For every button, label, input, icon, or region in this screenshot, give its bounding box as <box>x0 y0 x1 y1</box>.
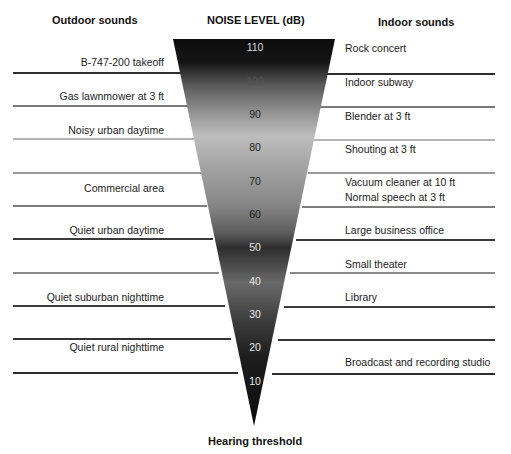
outdoor-label: Quiet urban daytime <box>69 224 164 236</box>
indoor-label: Rock concert <box>345 42 406 54</box>
db-80: 80 <box>235 141 275 153</box>
db-50: 50 <box>235 241 275 253</box>
db-110: 110 <box>235 41 275 53</box>
indoor-label: Broadcast and recording studio <box>345 356 490 368</box>
db-20: 20 <box>235 341 275 353</box>
outdoor-label: Commercial area <box>84 182 164 194</box>
db-100: 100 <box>235 75 275 87</box>
hearing-threshold-label: Hearing threshold <box>208 435 302 447</box>
outdoor-label: Quiet rural nighttime <box>69 341 164 353</box>
indoor-label: Blender at 3 ft <box>345 110 410 122</box>
indoor-label: Small theater <box>345 258 407 270</box>
db-30: 30 <box>235 308 275 320</box>
indoor-label: Vacuum cleaner at 10 ft <box>345 176 455 188</box>
db-70: 70 <box>235 175 275 187</box>
db-90: 90 <box>235 108 275 120</box>
indoor-label: Normal speech at 3 ft <box>345 191 445 203</box>
indoor-label: Indoor subway <box>345 76 413 88</box>
db-60: 60 <box>235 208 275 220</box>
outdoor-label: B-747-200 takeoff <box>81 56 164 68</box>
outdoor-label: Quiet suburban nighttime <box>47 291 164 303</box>
indoor-label: Shouting at 3 ft <box>345 143 416 155</box>
db-10: 10 <box>235 375 275 387</box>
indoor-label: Large business office <box>345 224 444 236</box>
outdoor-label: Noisy urban daytime <box>68 124 164 136</box>
indoor-label: Library <box>345 291 377 303</box>
outdoor-label: Gas lawnmower at 3 ft <box>60 90 164 102</box>
db-40: 40 <box>235 275 275 287</box>
